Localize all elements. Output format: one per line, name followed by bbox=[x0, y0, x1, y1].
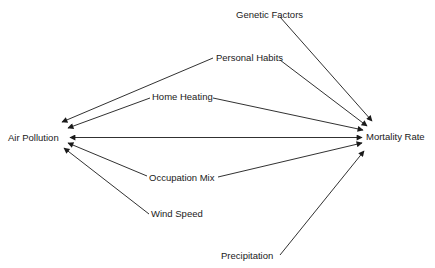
node-precipitation: Precipitation bbox=[221, 250, 273, 261]
nodes: Air Pollution Mortality Rate Genetic Fac… bbox=[8, 9, 425, 261]
node-occupation-mix: Occupation Mix bbox=[149, 172, 215, 183]
node-genetic-factors: Genetic Factors bbox=[236, 9, 303, 20]
edge-windspeed-to-airpollution bbox=[64, 148, 149, 214]
node-home-heating: Home Heating bbox=[152, 91, 213, 102]
edge-occupation-to-mortality bbox=[218, 143, 362, 177]
edge-habits-to-airpollution bbox=[62, 58, 213, 122]
node-wind-speed: Wind Speed bbox=[151, 208, 203, 219]
causal-diagram: Air Pollution Mortality Rate Genetic Fac… bbox=[0, 0, 435, 268]
edge-precipitation-to-mortality bbox=[280, 151, 364, 255]
edge-genetic-to-mortality bbox=[280, 17, 372, 121]
edge-occupation-to-airpollution bbox=[68, 143, 147, 176]
edge-heating-to-mortality bbox=[213, 98, 363, 130]
edge-habits-to-mortality bbox=[280, 60, 367, 126]
node-personal-habits: Personal Habits bbox=[216, 52, 283, 63]
node-air-pollution: Air Pollution bbox=[8, 132, 59, 143]
node-mortality-rate: Mortality Rate bbox=[366, 131, 425, 142]
